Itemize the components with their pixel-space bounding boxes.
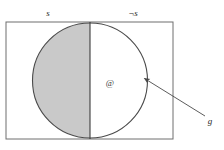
actual-world-marker: @ <box>106 78 114 88</box>
arrow-pointer-line <box>145 79 206 117</box>
label-arrow-target: g <box>208 116 213 126</box>
diagram-canvas: s ¬s g @ <box>0 0 224 150</box>
label-right-region: ¬s <box>128 8 138 18</box>
logic-diagram-figure: s ¬s g @ <box>0 0 224 150</box>
label-left-region: s <box>46 8 50 18</box>
